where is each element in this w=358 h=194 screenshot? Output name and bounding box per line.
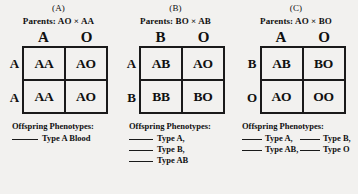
panel-a-col-header-2: O (65, 29, 108, 46)
phenotype-row: Type AB, Type O (242, 144, 358, 155)
phenotype-row: Type A, (129, 133, 234, 144)
panel-b-phenotypes-title: Offspring Phenotypes: (129, 121, 234, 132)
panel-c-phenotypes: Offspring Phenotypes: Type A, Type B, (234, 121, 358, 155)
panel-b: (B) Parents: BO × AB B O A AB AO B BB BO… (117, 0, 234, 194)
phenotype-row: Type AB (129, 155, 234, 166)
phenotype-label: Type A Blood (42, 133, 91, 144)
phenotype-entry: Type A, (129, 133, 185, 144)
panel-a-grid-corner (9, 29, 22, 46)
phenotype-entry: Type AB (129, 155, 188, 166)
phenotype-row: Type B, (129, 144, 234, 155)
panel-b-phenotypes: Offspring Phenotypes: Type A, Type B, (117, 121, 234, 166)
answer-blank-line[interactable] (129, 150, 153, 151)
panel-b-cell-r2c2: BO (182, 80, 225, 114)
panel-c-cell-r1c2: BO (303, 46, 346, 80)
phenotype-label: Type A, (157, 133, 185, 144)
panel-c-col-header-1: A (260, 29, 303, 46)
panel-a-cell-r2c1: AA (22, 80, 65, 114)
panel-b-cell-r1c2: AO (182, 46, 225, 80)
phenotype-label: Type B, (157, 144, 185, 155)
panel-c-cell-r2c1: AO (260, 80, 303, 114)
panel-c-row-header-2: O (247, 80, 260, 114)
phenotype-row: Type A Blood (12, 133, 117, 144)
panel-a-cell-r1c1: AA (22, 46, 65, 80)
phenotype-label: Type O (323, 144, 350, 155)
panel-a-col-header-1: A (22, 29, 65, 46)
panel-c: (C) Parents: AO × BO A O B AB BO O AO OO… (234, 0, 358, 194)
phenotype-entry: Type AB, (242, 144, 300, 155)
panel-c-cell-r2c2: OO (303, 80, 346, 114)
answer-blank-line[interactable] (300, 139, 320, 140)
panel-b-parents: Parents: BO × AB (140, 16, 211, 27)
panel-b-letter: (B) (169, 3, 182, 14)
panel-a-punnett-grid: A O A AA AO A AA AO (9, 29, 108, 114)
panel-c-phenotypes-title: Offspring Phenotypes: (242, 121, 358, 132)
panel-c-letter: (C) (290, 3, 303, 14)
panel-b-col-header-1: B (139, 29, 182, 46)
answer-blank-line[interactable] (12, 139, 38, 140)
panel-a-cell-r1c2: AO (65, 46, 108, 80)
panel-a-parents: Parents: AO × AA (23, 16, 94, 27)
panel-b-col-header-2: O (182, 29, 225, 46)
panel-c-col-header-2: O (303, 29, 346, 46)
answer-blank-line[interactable] (242, 139, 262, 140)
panel-a-row-header-1: A (9, 46, 22, 80)
phenotype-entry: Type O (300, 144, 358, 155)
phenotype-label: Type A, (265, 133, 293, 144)
panel-a-letter: (A) (52, 3, 65, 14)
panel-a-phenotypes-title: Offspring Phenotypes: (12, 121, 117, 132)
panel-b-row-header-2: B (126, 80, 139, 114)
panel-c-parents: Parents: AO × BO (260, 16, 332, 27)
answer-blank-line[interactable] (300, 150, 320, 151)
phenotype-entry: Type A, (242, 133, 300, 144)
punnett-square-worksheet: (A) Parents: AO × AA A O A AA AO A AA AO… (0, 0, 358, 194)
answer-blank-line[interactable] (242, 150, 262, 151)
phenotype-row: Type A, Type B, (242, 133, 358, 144)
phenotype-label: Type AB (157, 155, 188, 166)
answer-blank-line[interactable] (129, 161, 153, 162)
panel-b-phenotype-rows: Type A, Type B, Type AB (129, 133, 234, 166)
answer-blank-line[interactable] (129, 139, 153, 140)
panel-a: (A) Parents: AO × AA A O A AA AO A AA AO… (0, 0, 117, 194)
phenotype-entry: Type B, (129, 144, 185, 155)
panel-c-cell-r1c1: AB (260, 46, 303, 80)
panel-a-phenotype-rows: Type A Blood (12, 133, 117, 144)
panel-a-cell-r2c2: AO (65, 80, 108, 114)
panel-c-punnett-grid: A O B AB BO O AO OO (247, 29, 346, 114)
phenotype-label: Type B, (323, 133, 351, 144)
panel-b-cell-r2c1: BB (139, 80, 182, 114)
panel-a-phenotypes: Offspring Phenotypes: Type A Blood (0, 121, 117, 144)
phenotype-entry: Type A Blood (12, 133, 91, 144)
panel-c-grid-corner (247, 29, 260, 46)
phenotype-entry: Type B, (300, 133, 358, 144)
panel-b-punnett-grid: B O A AB AO B BB BO (126, 29, 225, 114)
panel-b-row-header-1: A (126, 46, 139, 80)
panel-c-row-header-1: B (247, 46, 260, 80)
panel-a-row-header-2: A (9, 80, 22, 114)
panel-c-phenotype-rows: Type A, Type B, Type AB, Type O (242, 133, 358, 155)
phenotype-label: Type AB, (265, 144, 298, 155)
panel-b-grid-corner (126, 29, 139, 46)
panel-b-cell-r1c1: AB (139, 46, 182, 80)
